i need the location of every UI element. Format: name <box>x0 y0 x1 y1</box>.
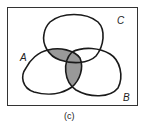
label-c: C <box>117 15 124 26</box>
label-a: A <box>20 52 27 63</box>
figure-caption: (c) <box>64 111 75 121</box>
label-b: B <box>123 92 130 103</box>
